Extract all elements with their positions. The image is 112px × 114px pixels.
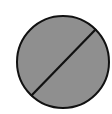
empty-set-icon <box>0 0 112 114</box>
figure-canvas <box>0 0 112 114</box>
